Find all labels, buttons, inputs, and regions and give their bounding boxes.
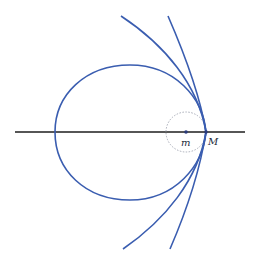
- focus-point: [184, 130, 188, 134]
- vertex-label: M: [207, 136, 219, 147]
- orbit-diagram: m M: [0, 0, 263, 269]
- focus-label: m: [181, 137, 190, 148]
- vertex-point: [204, 130, 208, 134]
